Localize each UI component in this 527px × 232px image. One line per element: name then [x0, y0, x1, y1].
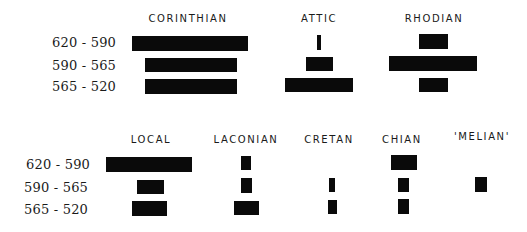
bar-local-590-565 [137, 180, 164, 194]
bar-chian-565-520 [398, 199, 409, 214]
row-label-565-520: 565 - 520 [24, 202, 88, 217]
bar-laconian-590-565 [241, 178, 252, 193]
bottom-chart: LOCAL LACONIAN CRETAN CHIAN 'MELIAN' 620… [0, 0, 527, 232]
header-local: LOCAL [131, 134, 171, 145]
bar-cretan-590-565 [329, 178, 335, 192]
bar-laconian-620-590 [241, 156, 251, 170]
bar-cretan-565-520 [328, 200, 337, 214]
bar-local-620-590 [106, 157, 192, 172]
bar-chian-620-590 [391, 155, 417, 170]
bar-local-565-520 [132, 201, 167, 216]
bar-melian-590-565 [475, 177, 487, 192]
row-label-590-565: 590 - 565 [24, 180, 88, 195]
header-chian: CHIAN [382, 134, 422, 145]
header-laconian: LACONIAN [214, 134, 279, 145]
bar-laconian-565-520 [234, 201, 259, 215]
header-melian: 'MELIAN' [454, 131, 510, 142]
row-label-620-590: 620 - 590 [26, 157, 90, 172]
header-cretan: CRETAN [304, 134, 354, 145]
bar-chian-590-565 [398, 178, 409, 192]
